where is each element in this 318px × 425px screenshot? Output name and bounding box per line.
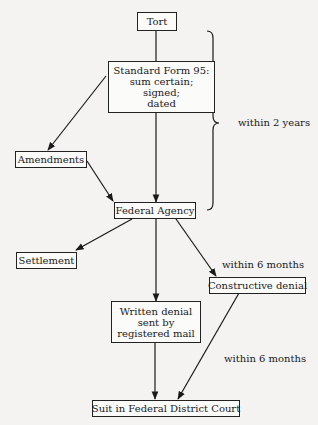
edge-amendments-agency — [87, 161, 113, 201]
node-tort-text: Tort — [147, 17, 168, 27]
edge-sf95-amendments — [48, 76, 106, 150]
node-constructive-denial: Constructive denial — [209, 277, 306, 294]
node-standard-form-95: Standard Form 95: sum certain; signed; d… — [108, 61, 215, 113]
diagram-canvas: Tort Standard Form 95: sum certain; sign… — [0, 0, 318, 425]
node-written-line-1: Written denial — [120, 306, 193, 317]
node-sf95-line-2: sum certain; — [130, 76, 194, 87]
label-within-6-months-suit: within 6 months — [224, 353, 306, 364]
node-constructive-text: Constructive denial — [208, 281, 307, 291]
node-tort: Tort — [137, 12, 177, 31]
node-sf95-line-3: signed; — [143, 87, 180, 98]
node-federal-agency: Federal Agency — [114, 202, 196, 219]
brace-within-2-years — [207, 31, 219, 210]
node-amendments-text: Amendments — [18, 155, 84, 165]
node-written-denial: Written denial sent by registered mail — [111, 301, 201, 343]
node-suit-federal-court: Suit in Federal District Court — [92, 400, 240, 417]
edge-agency-settlement — [76, 219, 132, 250]
node-sf95-line-4: dated — [147, 98, 176, 109]
node-settlement-text: Settlement — [19, 256, 75, 266]
node-written-line-2: sent by — [138, 317, 175, 328]
node-settlement: Settlement — [16, 252, 77, 269]
node-amendments: Amendments — [15, 151, 87, 168]
node-sf95-line-1: Standard Form 95: — [114, 65, 210, 76]
edge-agency-constructive — [176, 219, 216, 276]
node-agency-text: Federal Agency — [116, 206, 195, 216]
label-within-6-months-constructive: within 6 months — [222, 259, 304, 270]
node-written-line-3: registered mail — [117, 328, 195, 339]
label-within-2-years: within 2 years — [238, 117, 310, 128]
node-suit-text: Suit in Federal District Court — [92, 404, 240, 414]
